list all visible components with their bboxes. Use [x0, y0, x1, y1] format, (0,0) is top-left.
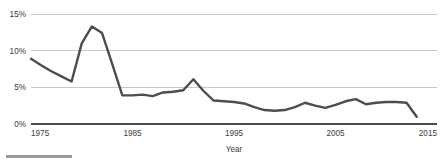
x-tick-label-2005: 2005 [326, 129, 345, 138]
y-tick-label-10: 10% [10, 47, 26, 56]
y-tick-label-5: 5% [14, 83, 26, 92]
x-axis-title: Year [226, 145, 243, 154]
x-axis-tick-labels: 1975 1985 1995 2005 2015 [31, 129, 437, 138]
y-tick-label-15: 15% [10, 10, 26, 19]
footer-rule [6, 155, 72, 158]
x-tick-label-1995: 1995 [225, 129, 244, 138]
data-line-rate [31, 26, 417, 116]
line-chart: 15% 10% 5% 0% 1975 1985 1995 2005 2015 Y… [0, 0, 443, 164]
x-tick-label-1985: 1985 [123, 129, 142, 138]
y-axis-tick-labels: 15% 10% 5% 0% [10, 10, 26, 129]
gridlines [31, 14, 437, 124]
chart-canvas: 15% 10% 5% 0% 1975 1985 1995 2005 2015 Y… [0, 0, 443, 164]
x-tick-label-2015: 2015 [419, 129, 438, 138]
x-tick-label-1975: 1975 [31, 129, 50, 138]
y-tick-label-0: 0% [14, 120, 26, 129]
